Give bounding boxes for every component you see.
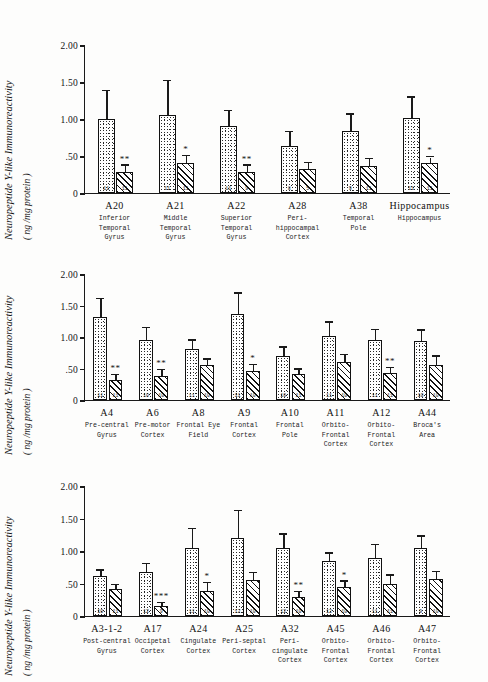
bar-control [98, 119, 115, 193]
error-bar-cap [96, 298, 104, 299]
sample-size-label: 10 [204, 394, 210, 399]
significance-marker: * [183, 145, 188, 154]
error-bar-cap [157, 369, 165, 370]
bar-control [159, 115, 176, 193]
y-axis-tick [80, 584, 85, 585]
x-axis-category-label: A28 [288, 200, 306, 211]
y-axis-tick-label: 0 [73, 612, 78, 622]
x-axis-category-label: A32 [281, 623, 299, 634]
x-axis-category-label: Hippocampus [390, 200, 450, 211]
error-bar-cap [417, 535, 425, 536]
sample-size-label: 10 [341, 610, 347, 615]
sample-size-label: 10 [341, 394, 347, 399]
y-axis-tick-label: 0 [73, 189, 78, 199]
error-bar-cap [294, 368, 302, 369]
sample-size-label: 11 [112, 394, 118, 399]
error-bar-cap [407, 96, 415, 97]
y-axis-tick [80, 306, 85, 307]
error-bar-cap [243, 164, 251, 165]
error-bar [115, 375, 116, 381]
error-bar-cap [371, 544, 379, 545]
error-bar-cap [340, 354, 348, 355]
error-bar [283, 348, 284, 356]
y-axis-title-line-1: Neuropeptide Y-like Immunoreactivity [3, 81, 14, 240]
significance-marker: ** [385, 357, 395, 366]
error-bar [100, 571, 101, 577]
x-axis-category-label: A6 [146, 407, 159, 418]
y-axis-tick [80, 274, 85, 275]
error-bar [146, 564, 147, 572]
y-axis-title-panel-1: Neuropeptide Y-like Immunoreactivity ( n… [8, 18, 52, 246]
sample-size-label: 10 [250, 394, 256, 399]
sample-size-label: 11 [387, 394, 393, 399]
y-axis-tick-label: 1.50 [61, 78, 78, 88]
y-axis-title-panel-2: Neuropeptide Y-like Immunoreactivity ( n… [8, 253, 52, 461]
error-bar [125, 166, 126, 172]
error-bar-cap [182, 155, 190, 156]
sample-size-label: 10 [158, 394, 164, 399]
sample-size-label: 11 [295, 394, 301, 399]
sample-size-label: 11 [366, 187, 372, 192]
y-axis-tick [80, 486, 85, 487]
error-bar-cap [365, 158, 373, 159]
error-bar [100, 299, 101, 317]
x-axis-category-label: A38 [349, 200, 367, 211]
error-bar [283, 535, 284, 549]
sample-size-label: 11 [189, 610, 195, 615]
sample-size-label: 12 [280, 610, 286, 615]
bar-control [342, 131, 359, 193]
bar-control [403, 118, 420, 193]
sample-size-label: 9 [419, 610, 422, 615]
x-axis-category-description: Orbito- Frontal Cortex [397, 637, 457, 666]
x-axis-category-label: A3-1-2 [91, 623, 122, 634]
x-axis-category-description: Hippocampus [382, 214, 457, 224]
x-axis-category-label: A20 [105, 200, 123, 211]
error-bar-cap [188, 339, 196, 340]
y-axis-title-line-2: ( ng /mg protein ) [22, 173, 32, 240]
sample-size-label: 10 [204, 610, 210, 615]
y-axis-title-line-2: ( ng /mg protein ) [22, 388, 32, 455]
error-bar-cap [325, 552, 333, 553]
y-axis-tick [80, 551, 85, 552]
y-axis-tick-label: 2.00 [61, 41, 78, 51]
y-axis-tick [80, 82, 85, 83]
bar-control [185, 548, 199, 616]
error-bar-cap [203, 582, 211, 583]
x-axis-category-label: A24 [189, 623, 207, 634]
error-bar-cap [111, 584, 119, 585]
error-bar-cap [163, 80, 171, 81]
sample-size-label: 9 [245, 187, 248, 192]
y-axis-tick [80, 616, 85, 617]
error-bar-cap [432, 571, 440, 572]
x-axis-category-label: A46 [372, 623, 390, 634]
error-bar-cap [371, 329, 379, 330]
x-axis-category-label: A11 [327, 407, 345, 418]
y-axis-tick-label: 0 [73, 396, 78, 406]
y-axis-tick [80, 156, 85, 157]
significance-marker: ** [156, 359, 166, 368]
x-axis-category-label: A9 [238, 407, 251, 418]
error-bar [421, 537, 422, 548]
error-bar [375, 330, 376, 339]
error-bar-cap [188, 528, 196, 529]
error-bar [298, 592, 299, 597]
error-bar-cap [325, 321, 333, 322]
y-axis-tick-label: .50 [66, 152, 78, 162]
significance-marker: * [204, 572, 209, 581]
error-bar [207, 360, 208, 366]
y-axis-tick-label: 2.00 [61, 482, 78, 492]
error-bar [350, 115, 351, 131]
error-bar [375, 545, 376, 557]
bar-control [414, 548, 428, 616]
y-axis-title-line-1: Neuropeptide Y-like Immunoreactivity [3, 517, 14, 676]
error-bar [167, 81, 168, 114]
error-bar-cap [224, 110, 232, 111]
x-axis-category-label: A45 [326, 623, 344, 634]
sample-size-label: 11 [387, 610, 393, 615]
chart-panel-3: Neuropeptide Y-like Immunoreactivity ( n… [0, 463, 488, 682]
error-bar [253, 365, 254, 371]
error-bar [161, 370, 162, 376]
sample-size-label: 10 [280, 394, 286, 399]
error-bar-cap [285, 131, 293, 132]
error-bar [430, 158, 431, 164]
